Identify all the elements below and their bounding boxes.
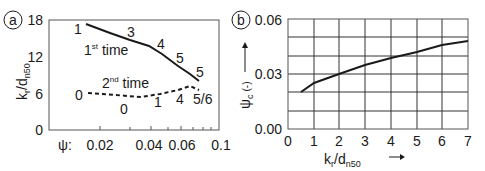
figure: a 18 12 6 0 ψ: 0.02 0.04 0.06 0.1 kr/dn5…	[0, 0, 485, 171]
panel-b-xtick-7: 7	[464, 133, 472, 149]
panel-b-y-axis-label: ψc(-)	[237, 82, 255, 109]
panel-a-badge: a	[9, 12, 17, 28]
panel-b-ytick-0.06: 0.06	[255, 12, 282, 28]
panel-b-xtick-3: 3	[361, 133, 369, 149]
series-psi-c-line	[301, 41, 468, 92]
panel-b-xtick-5: 5	[413, 133, 421, 149]
dashed-point-label-0b: 0	[120, 101, 128, 117]
solid-point-label-3: 3	[127, 24, 135, 40]
panel-a: a 18 12 6 0 ψ: 0.02 0.04 0.06 0.1 kr/dn5…	[4, 11, 231, 153]
panel-b-xtick-0: 0	[284, 133, 292, 149]
first-time-label: 1st time	[84, 42, 129, 58]
x-direction-arrow-icon	[389, 154, 405, 160]
panel-b-badge: b	[237, 12, 245, 28]
panel-a-xtick-0.04: 0.04	[135, 137, 162, 153]
solid-point-label-4: 4	[157, 36, 165, 52]
second-time-label: 2nd time	[102, 75, 149, 91]
solid-point-label-1: 1	[74, 21, 82, 37]
panel-a-ytick-0: 0	[35, 122, 43, 138]
dashed-point-label-1: 1	[154, 94, 162, 110]
dashed-point-label-4: 4	[176, 91, 184, 107]
dashed-point-label-5-6: 5/6	[193, 91, 213, 107]
panel-a-y-axis-label: kr/dn50	[14, 63, 32, 100]
panel-a-xtick-0.06: 0.06	[168, 137, 195, 153]
panel-b-xtick-2: 2	[335, 133, 343, 149]
panel-b-ytick-0.00: 0.00	[255, 121, 282, 137]
panel-a-xtick-0.1: 0.1	[211, 137, 231, 153]
panel-b-x-axis-label: kr/dn50	[324, 151, 361, 169]
panel-b-xtick-1: 1	[310, 133, 318, 149]
y-direction-arrow-icon	[242, 42, 248, 72]
solid-point-label-5a: 5	[176, 50, 184, 66]
dashed-point-label-0a: 0	[75, 87, 83, 103]
panel-b-xtick-6: 6	[438, 133, 446, 149]
panel-a-ytick-18: 18	[27, 12, 43, 28]
panel-a-xtick-0.02: 0.02	[86, 137, 113, 153]
panel-a-xticks	[100, 126, 211, 130]
panel-a-x-axis-label: ψ:	[58, 137, 72, 153]
panel-a-ytick-12: 12	[27, 49, 43, 65]
panel-a-ytick-6: 6	[35, 86, 43, 102]
solid-point-label-5b: 5	[196, 64, 204, 80]
panel-b-grid	[288, 19, 468, 129]
panel-b-xtick-4: 4	[387, 133, 395, 149]
panel-b-ytick-0.03: 0.03	[255, 66, 282, 82]
panel-b: b 0.06 0.03 0.00 0 1 2 3 4 5 6 7	[232, 11, 472, 169]
